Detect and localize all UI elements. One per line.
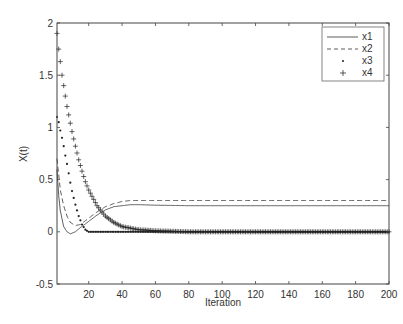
x-tick-label: 160 [314,289,331,300]
series-x3 [56,116,390,233]
legend-swatch-dot [342,60,344,62]
marker-dot [76,209,78,211]
y-tick-label: 0 [47,226,53,237]
marker-dot [69,182,71,184]
marker-dot [83,226,85,228]
y-tick-label: -0.5 [36,279,54,290]
marker-dot [74,204,76,206]
x-tick-label: 180 [347,289,364,300]
series-line-x1 [57,169,389,234]
marker-dot [61,137,63,139]
marker-dot [71,190,73,192]
line-chart: 20406080100120140160180200-0.500.511.52 … [0,0,403,324]
legend-label-x4: x4 [362,67,373,78]
legend: x1 x2 x3 x4 [322,27,384,81]
legend-label-x1: x1 [362,31,373,42]
x-tick-label: 60 [150,289,162,300]
legend-label-x2: x2 [362,43,373,54]
x-tick-label: 200 [381,289,398,300]
series-x1 [57,169,389,234]
marker-dot [66,163,68,165]
legend-box [322,27,384,81]
marker-dot [79,219,81,221]
x-tick-label: 80 [183,289,195,300]
marker-dot [81,223,83,225]
y-axis-label: X(t) [18,146,29,162]
marker-dot [68,172,70,174]
marker-dot [73,197,75,199]
marker-dot [63,145,65,147]
x-tick-label: 120 [247,289,264,300]
marker-dot [78,215,80,217]
y-tick-label: 0.5 [39,174,53,185]
marker-dot [58,121,60,123]
legend-label-x3: x3 [362,55,373,66]
x-axis-label: Iteration [205,297,241,308]
y-tick-label: 2 [47,18,53,29]
x-tick-label: 20 [83,289,95,300]
x-tick-label: 40 [117,289,129,300]
x-tick-label: 140 [281,289,298,300]
marker-dot [59,129,61,131]
y-tick-label: 1 [47,122,53,133]
marker-dot [64,155,66,157]
y-tick-label: 1.5 [39,70,53,81]
